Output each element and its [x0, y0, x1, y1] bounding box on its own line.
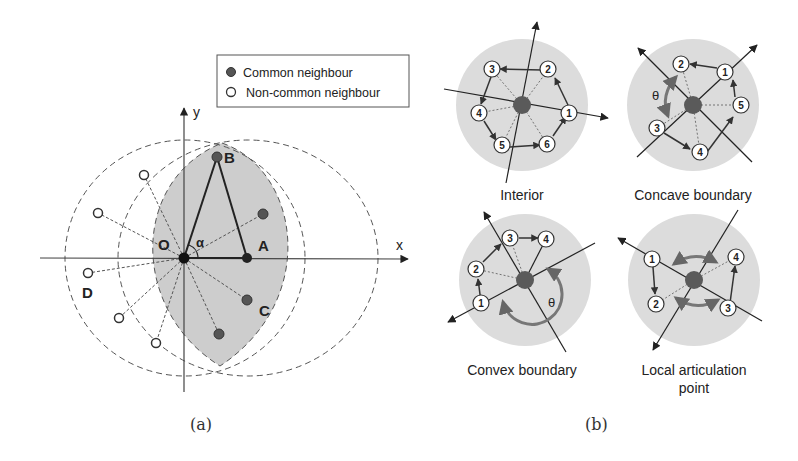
title-articulation-1: Local articulation — [641, 362, 746, 378]
panel-b: 1 2 3 4 5 6 Interior θ — [444, 22, 762, 434]
svg-text:4: 4 — [697, 147, 703, 158]
figure: y x α — [0, 0, 798, 461]
x-axis-label: x — [396, 237, 403, 253]
svg-text:4: 4 — [543, 234, 549, 245]
subfig-convex: θ 1 2 3 4 Convex boundary — [448, 212, 595, 378]
legend-non-common: Non-common neighbour — [246, 86, 380, 100]
svg-text:3: 3 — [489, 64, 495, 75]
point-a — [242, 253, 252, 263]
title-convex: Convex boundary — [467, 362, 577, 378]
point-o — [179, 253, 190, 264]
label-d: D — [82, 284, 93, 301]
title-concave: Concave boundary — [634, 187, 752, 203]
alpha-label: α — [196, 235, 204, 250]
theta-concave: θ — [652, 88, 659, 103]
panel-a: y x α — [40, 55, 409, 434]
non-common-neighbours — [84, 171, 161, 348]
filled-circle-icon — [227, 68, 236, 77]
svg-text:3: 3 — [725, 303, 731, 314]
svg-text:1: 1 — [722, 67, 728, 78]
svg-text:2: 2 — [653, 299, 659, 310]
svg-text:4: 4 — [733, 252, 739, 263]
label-c: C — [259, 302, 270, 319]
hollow-circle-icon — [227, 88, 236, 97]
svg-text:1: 1 — [478, 298, 484, 309]
svg-text:2: 2 — [545, 64, 551, 75]
subfig-articulation: 1 2 3 4 Local articulation point — [618, 210, 762, 396]
label-b: B — [224, 149, 235, 166]
svg-text:3: 3 — [654, 123, 660, 134]
label-a: A — [258, 237, 269, 254]
svg-text:3: 3 — [507, 233, 513, 244]
y-axis-label: y — [193, 104, 200, 120]
svg-text:1: 1 — [649, 254, 655, 265]
svg-text:4: 4 — [476, 108, 482, 119]
legend-common: Common neighbour — [243, 66, 353, 80]
svg-text:6: 6 — [544, 139, 550, 150]
subfig-concave: θ 1 2 3 4 5 Concave boundary — [627, 39, 759, 203]
legend: Common neighbour Non-common neighbour — [217, 55, 409, 107]
svg-text:2: 2 — [678, 59, 684, 70]
theta-convex: θ — [548, 295, 555, 310]
title-articulation-2: point — [679, 380, 709, 396]
caption-a: (a) — [190, 415, 212, 434]
svg-text:5: 5 — [738, 100, 744, 111]
svg-text:1: 1 — [566, 108, 572, 119]
svg-text:5: 5 — [499, 140, 505, 151]
label-o: O — [158, 236, 170, 253]
title-interior: Interior — [500, 187, 544, 203]
subfig-interior: 1 2 3 4 5 6 Interior — [444, 22, 608, 203]
svg-text:2: 2 — [473, 264, 479, 275]
caption-b: (b) — [585, 415, 608, 434]
